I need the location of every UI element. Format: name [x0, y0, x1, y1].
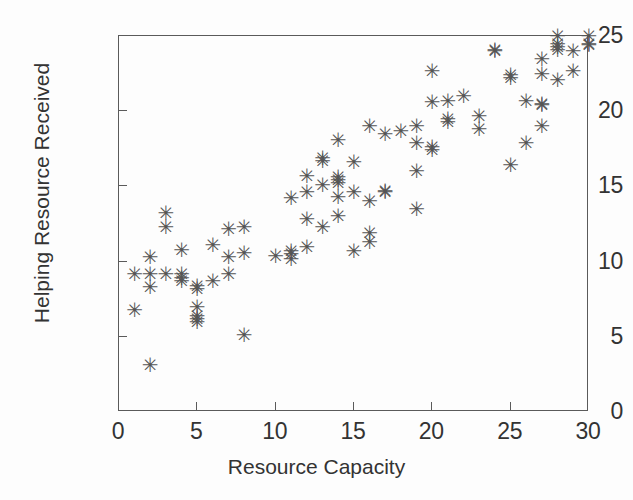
- y-tick-mark: [118, 336, 127, 337]
- y-tick-label: 10: [525, 247, 633, 274]
- y-tick-label: 20: [525, 97, 633, 124]
- x-tick-label: 20: [401, 418, 461, 445]
- x-tick-mark: [275, 402, 276, 411]
- x-tick-label: 15: [323, 418, 383, 445]
- y-tick-mark: [118, 185, 127, 186]
- y-axis-title: Helping Resource Received: [30, 5, 54, 381]
- x-tick-label: 5: [166, 418, 226, 445]
- y-tick-mark: [118, 261, 127, 262]
- x-tick-mark: [353, 402, 354, 411]
- x-tick-mark: [431, 402, 432, 411]
- plot-frame: [118, 35, 588, 411]
- y-tick-label: 15: [525, 172, 633, 199]
- x-axis-title: Resource Capacity: [0, 455, 633, 479]
- x-tick-label: 30: [558, 418, 618, 445]
- y-tick-mark: [118, 110, 127, 111]
- x-tick-label: 0: [88, 418, 148, 445]
- x-tick-label: 25: [480, 418, 540, 445]
- x-tick-mark: [510, 402, 511, 411]
- scatter-plot-figure: 0510152025051015202530 ✳✳✳✳✳✳✳✳✳✳✳✳✳✳✳✳✳…: [0, 0, 633, 500]
- y-tick-label: 25: [525, 22, 633, 49]
- x-tick-mark: [196, 402, 197, 411]
- y-tick-label: 5: [525, 322, 633, 349]
- x-tick-label: 10: [245, 418, 305, 445]
